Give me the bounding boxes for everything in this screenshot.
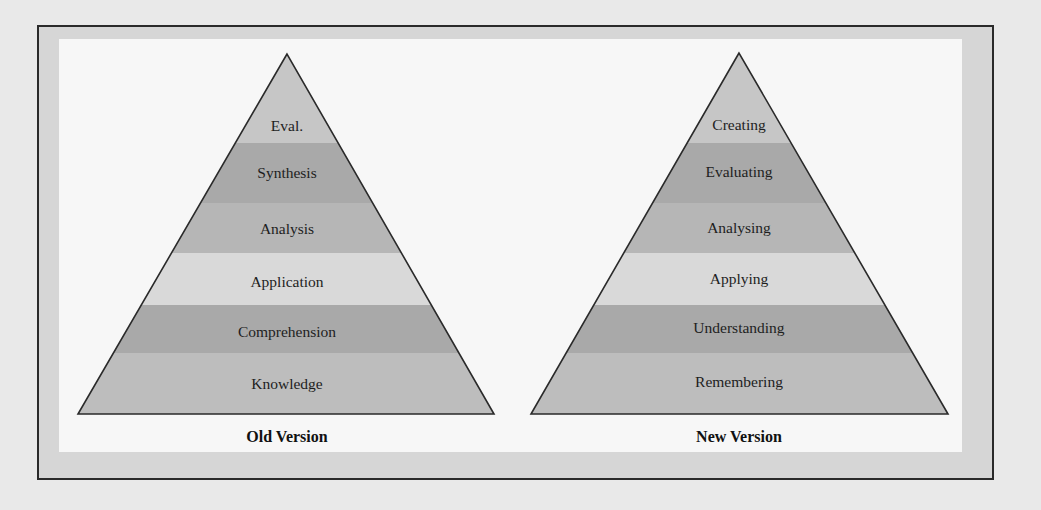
level-label: Evaluating (705, 163, 772, 180)
level-label: Knowledge (251, 375, 323, 392)
pyramid-old-version: Eval. Synthesis Analysis Application Com… (60, 50, 520, 445)
level-label: Application (250, 273, 323, 290)
level-label: Analysing (707, 219, 771, 236)
caption-new-version: New Version (696, 428, 782, 445)
level-label: Creating (712, 116, 766, 133)
level-label: Analysis (260, 220, 314, 237)
taxonomy-diagram: Eval. Synthesis Analysis Application Com… (0, 0, 1041, 510)
level-label: Remembering (695, 373, 783, 390)
level-label: Understanding (693, 319, 785, 336)
level-label: Applying (710, 270, 769, 287)
level-label: Eval. (271, 117, 303, 134)
pyramid-new-version: Creating Evaluating Analysing Applying U… (520, 50, 960, 445)
level-label: Synthesis (257, 164, 316, 181)
caption-old-version: Old Version (246, 428, 327, 445)
level-label: Comprehension (238, 323, 336, 340)
